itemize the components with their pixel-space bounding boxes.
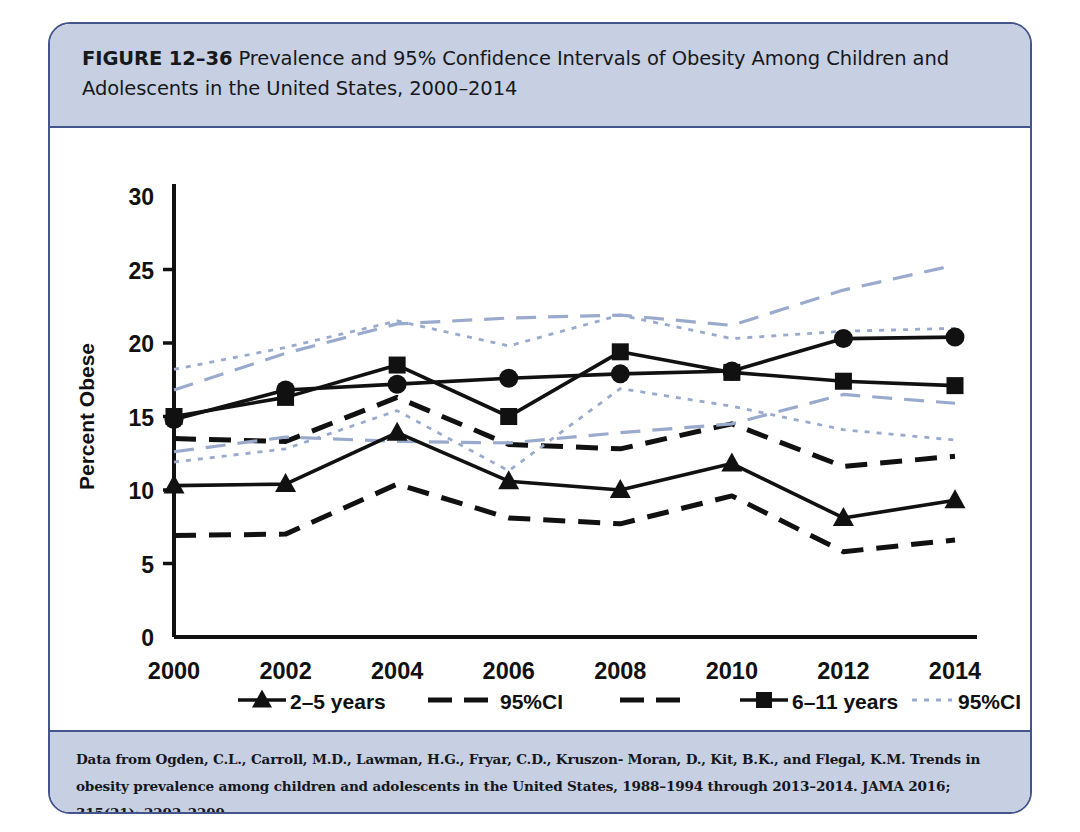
series-line — [174, 397, 955, 466]
data-point-circle — [834, 329, 853, 348]
legend-label-2-5-ci: 95%CI — [500, 690, 563, 713]
plot-area: 051015202530Percent Obese200020022004200… — [50, 128, 1029, 734]
data-point-square — [835, 373, 852, 390]
y-axis-tick-label: 10 — [128, 478, 154, 504]
data-point-square — [389, 357, 406, 374]
y-axis-tick-label: 15 — [128, 405, 154, 431]
figure-number: FIGURE 12–36 — [82, 47, 232, 70]
y-axis-tick-label: 20 — [128, 331, 154, 357]
y-axis-tick-label: 0 — [141, 625, 154, 651]
series-line — [174, 265, 955, 390]
legend-label-2-5-years: 2–5 years — [290, 690, 386, 713]
series-line — [174, 433, 955, 518]
y-axis-title: Percent Obese — [75, 343, 98, 490]
caption-band: FIGURE 12–36 Prevalence and 95% Confiden… — [50, 24, 1030, 128]
source-citation: Data from Ogden, C.L., Carroll, M.D., La… — [76, 746, 1008, 814]
data-point-triangle — [721, 453, 742, 472]
legend-label-6-11-years: 6–11 years — [792, 690, 898, 713]
source-band: Data from Ogden, C.L., Carroll, M.D., La… — [50, 730, 1030, 812]
y-axis-tick-label: 25 — [128, 258, 154, 284]
legend-label-6-11-ci: 95%CI — [958, 690, 1021, 713]
y-axis-tick-label: 5 — [141, 552, 154, 578]
legend-square-marker — [756, 692, 772, 708]
data-point-circle — [165, 410, 184, 429]
data-point-circle — [499, 369, 518, 388]
data-point-square — [612, 343, 629, 360]
data-point-circle — [276, 381, 295, 400]
data-point-triangle — [945, 489, 966, 508]
y-axis-tick-label: 30 — [128, 184, 154, 210]
data-point-square — [947, 377, 964, 394]
data-point-circle — [946, 328, 965, 347]
data-point-circle — [722, 361, 741, 380]
figure-frame: FIGURE 12–36 Prevalence and 95% Confiden… — [48, 22, 1032, 814]
data-point-triangle — [387, 422, 408, 441]
figure-page: FIGURE 12–36 Prevalence and 95% Confiden… — [0, 0, 1080, 832]
data-point-square — [500, 408, 517, 425]
obesity-prevalence-line-chart: 051015202530Percent Obese200020022004200… — [50, 128, 1029, 734]
figure-caption: FIGURE 12–36 Prevalence and 95% Confiden… — [82, 44, 1004, 104]
data-point-circle — [388, 375, 407, 394]
data-point-circle — [611, 364, 630, 383]
